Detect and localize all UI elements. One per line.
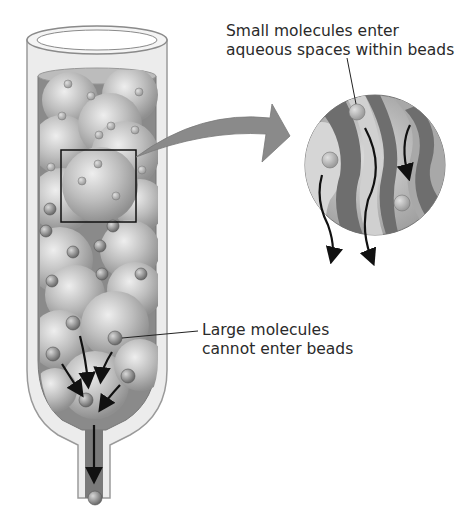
large-molecules-label: Large molecules cannot enter beads [202,321,353,359]
magnified-bead-inset [300,95,445,260]
small-molecules-label-line1: Small molecules enter [226,22,454,41]
large-molecules-label-line1: Large molecules [202,321,353,340]
small-molecules-label-line2: aqueous spaces within beads [226,41,454,60]
small-molecule-leader-line [347,58,356,104]
diagram-canvas [0,0,471,526]
large-molecules-label-line2: cannot enter beads [202,340,353,359]
eluted-molecule [88,491,102,505]
small-molecules-label: Small molecules enter aqueous spaces wit… [226,22,454,60]
